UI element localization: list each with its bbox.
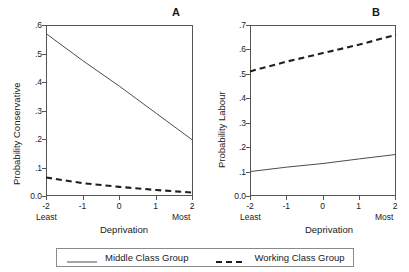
legend-label-working-class: Working Class Group [254,252,344,263]
panel-a: A Probability Conservative Deprivation 0… [0,0,204,238]
legend-entry-working-class: Working Class Group [216,252,344,263]
panel-b-series-layer [205,0,409,238]
panel-a-series-layer [0,0,204,238]
legend-entry-middle-class: Middle Class Group [67,252,188,263]
figure: A Probability Conservative Deprivation 0… [0,0,409,272]
legend: Middle Class Group Working Class Group [56,248,354,267]
panel-b: B Probability Labour Deprivation 0.0 .1 … [205,0,409,238]
legend-label-middle-class: Middle Class Group [105,252,188,263]
panel-b-series-middle-class [250,154,396,171]
legend-line-dashed-icon [216,253,246,263]
legend-line-solid-icon [67,253,97,263]
panel-a-series-working-class [46,177,193,192]
panel-b-series-working-class [250,35,396,72]
panel-a-series-middle-class [46,34,193,141]
